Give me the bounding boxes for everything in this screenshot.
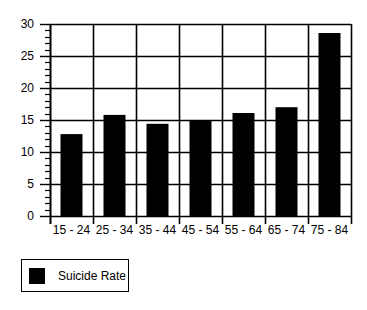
x-tick-label: 25 - 34	[96, 223, 134, 237]
x-tick-label: 75 - 84	[311, 223, 349, 237]
legend: Suicide Rate	[21, 259, 129, 292]
bar	[233, 113, 255, 216]
y-tick-label: 25	[21, 49, 35, 63]
y-tick-label: 15	[21, 113, 35, 127]
x-tick-label: 45 - 54	[182, 223, 220, 237]
bar	[319, 33, 341, 216]
legend-swatch-suicide-rate	[29, 268, 45, 284]
x-tick-label: 55 - 64	[225, 223, 263, 237]
bar	[147, 124, 169, 216]
bar	[61, 134, 83, 216]
bar	[276, 107, 298, 216]
y-tick-label: 0	[27, 209, 34, 223]
x-tick-label: 65 - 74	[268, 223, 306, 237]
y-axis-tick-labels: 051015202530	[21, 17, 35, 223]
bar	[104, 115, 126, 216]
x-tick-label: 35 - 44	[139, 223, 177, 237]
y-tick-label: 30	[21, 17, 35, 31]
y-tick-label: 5	[27, 177, 34, 191]
bar	[190, 120, 212, 216]
x-axis-tick-labels: 15 - 2425 - 3435 - 4445 - 5455 - 6465 - …	[53, 223, 349, 237]
y-tick-label: 20	[21, 81, 35, 95]
y-tick-label: 10	[21, 145, 35, 159]
bars	[61, 33, 341, 216]
axes	[40, 24, 51, 224]
legend-label-suicide-rate: Suicide Rate	[58, 268, 126, 284]
x-tick-label: 15 - 24	[53, 223, 91, 237]
bar-chart: 051015202530 15 - 2425 - 3435 - 4445 - 5…	[0, 0, 367, 255]
